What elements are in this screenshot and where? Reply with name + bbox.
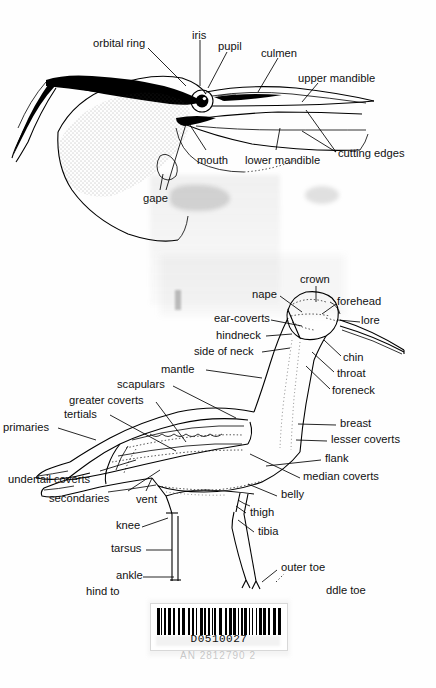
label-vent: vent: [136, 494, 157, 506]
label-chin: chin: [343, 352, 364, 364]
barcode-ghost-text: AN 2812790 2: [152, 650, 284, 661]
label-gape: gape: [143, 193, 168, 205]
label-knee: knee: [116, 520, 140, 532]
label-ankle: ankle: [116, 570, 143, 582]
scanned-page: orbital ring iris pupil culmen upper man…: [0, 0, 436, 688]
label-hindneck: hindneck: [216, 330, 261, 342]
label-orbital-ring: orbital ring: [93, 38, 145, 50]
label-crown: crown: [300, 274, 330, 286]
label-secondaries: secondaries: [49, 493, 109, 505]
label-outer-toe: outer toe: [281, 562, 325, 574]
body-leader-lines: [58, 286, 360, 582]
label-pupil: pupil: [218, 41, 242, 53]
label-scapulars: scapulars: [117, 379, 165, 391]
label-lower-mandible: lower mandible: [245, 155, 320, 167]
label-cutting-edges: cutting edges: [338, 148, 405, 160]
label-thigh: thigh: [250, 507, 274, 519]
barcode-sticker-smudge: [156, 636, 280, 646]
label-undertail-coverts: undertail coverts: [8, 474, 90, 486]
label-greater-coverts: greater coverts: [69, 395, 144, 407]
topography-linework: [0, 0, 436, 688]
label-hind-toe: hind to: [86, 586, 120, 598]
label-tarsus: tarsus: [111, 543, 141, 555]
label-nape: nape: [252, 289, 277, 301]
label-lesser-coverts: lesser coverts: [331, 434, 400, 446]
label-tertials: tertials: [64, 409, 97, 421]
label-flank: flank: [325, 453, 349, 465]
label-belly: belly: [281, 489, 304, 501]
label-ear-coverts: ear-coverts: [214, 313, 270, 325]
label-lore: lore: [361, 315, 380, 327]
label-iris: iris: [192, 30, 206, 42]
label-foreneck: foreneck: [332, 385, 375, 397]
label-tibia: tibia: [258, 526, 279, 538]
label-upper-mandible: upper mandible: [298, 73, 375, 85]
label-side-of-neck: side of neck: [194, 346, 254, 358]
label-middle-toe: ddle toe: [326, 585, 366, 597]
label-throat: throat: [337, 368, 366, 380]
barcode-bars: [157, 608, 281, 635]
label-forehead: forehead: [337, 296, 381, 308]
label-primaries: primaries: [3, 422, 49, 434]
label-breast: breast: [340, 418, 371, 430]
label-mouth: mouth: [197, 155, 228, 167]
label-median-coverts: median coverts: [303, 471, 379, 483]
label-mantle: mantle: [161, 364, 195, 376]
label-culmen: culmen: [261, 48, 297, 60]
